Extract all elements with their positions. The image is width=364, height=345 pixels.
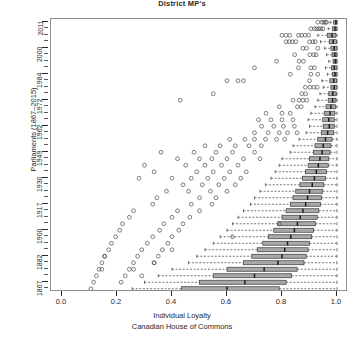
outlier-point	[308, 85, 312, 89]
outlier-point	[156, 254, 160, 258]
boxplot-row	[114, 235, 337, 239]
outlier-point	[272, 124, 276, 128]
outlier-point	[259, 144, 263, 148]
outlier-point	[200, 183, 204, 187]
x-tick-label: 0.8	[266, 297, 296, 306]
outlier-point	[275, 59, 279, 63]
boxplot-row	[293, 53, 337, 57]
boxplot-row	[228, 137, 337, 141]
outlier-point	[233, 183, 237, 187]
outlier-point	[119, 280, 123, 284]
boxplot-row	[100, 261, 337, 265]
outlier-point	[280, 33, 284, 37]
outlier-point	[308, 53, 312, 57]
outlier-point	[176, 157, 180, 161]
y-tick	[44, 274, 48, 275]
y-tick-label: 2000	[37, 47, 44, 63]
outlier-point	[293, 53, 297, 57]
boxplot-row	[132, 209, 337, 213]
outlier-point	[176, 209, 180, 213]
outlier-point	[225, 189, 229, 193]
outlier-point	[123, 274, 127, 278]
outlier-point	[121, 222, 125, 226]
boxplot-row	[253, 66, 337, 70]
outlier-point	[309, 72, 313, 76]
outlier-point	[233, 144, 237, 148]
outlier-point	[210, 202, 214, 206]
boxplot-row	[118, 228, 337, 232]
boxplot-row	[89, 287, 337, 290]
outlier-point	[316, 20, 320, 24]
outlier-point	[283, 137, 287, 141]
boxplot-row	[225, 79, 337, 83]
outlier-point	[303, 85, 307, 89]
outlier-point	[260, 124, 264, 128]
outlier-point	[159, 150, 163, 154]
outlier-point	[136, 254, 140, 258]
x-tick	[116, 291, 117, 296]
boxplot-series	[51, 19, 346, 290]
outlier-point	[236, 163, 240, 167]
boxplot-row	[309, 27, 337, 31]
outlier-point	[152, 261, 156, 265]
outlier-point	[302, 59, 306, 63]
x-tick	[61, 291, 62, 296]
x-tick	[226, 291, 227, 296]
outlier-point	[266, 131, 270, 135]
boxplot-row	[277, 105, 337, 109]
outlier-point	[152, 170, 156, 174]
y-tick	[44, 112, 48, 113]
outlier-point	[143, 163, 147, 167]
outlier-point	[107, 248, 111, 252]
y-tick-label: 1984	[37, 73, 44, 89]
outlier-point	[188, 215, 192, 219]
outlier-point	[292, 124, 296, 128]
outlier-point	[236, 79, 240, 83]
y-tick	[44, 261, 48, 262]
outlier-point	[288, 72, 292, 76]
outlier-point	[220, 163, 224, 167]
y-tick-label: 1949	[37, 151, 44, 167]
y-tick	[44, 105, 48, 106]
x-tick-label: 0.4	[156, 297, 186, 306]
y-tick	[44, 27, 48, 28]
chart-title: District MP's	[0, 0, 364, 8]
y-tick-label: 1882	[37, 255, 44, 271]
outlier-point	[264, 137, 268, 141]
outlier-point	[269, 118, 273, 122]
outlier-point	[184, 163, 188, 167]
outlier-point	[151, 202, 155, 206]
outlier-point	[100, 261, 104, 265]
boxplot-row	[151, 202, 337, 206]
outlier-point	[198, 157, 202, 161]
outlier-point	[253, 150, 257, 154]
y-tick	[44, 118, 48, 119]
outlier-point	[192, 150, 196, 154]
boxplot-row	[275, 59, 337, 63]
boxplot-row	[288, 72, 337, 76]
x-axis-title-line1: Individual Loyalty	[0, 311, 364, 322]
y-tick	[44, 66, 48, 67]
outlier-point	[277, 131, 281, 135]
y-tick	[44, 190, 48, 191]
outlier-point	[89, 287, 93, 290]
outlier-point	[305, 98, 309, 102]
x-tick	[281, 291, 282, 296]
outlier-point	[217, 183, 221, 187]
outlier-point	[158, 228, 162, 232]
y-tick	[44, 222, 48, 223]
outlier-point	[178, 98, 182, 102]
boxplot-row	[107, 248, 337, 252]
outlier-point	[299, 105, 303, 109]
outlier-point	[297, 59, 301, 63]
outlier-point	[314, 53, 318, 57]
outlier-point	[170, 235, 174, 239]
boxplot-row	[103, 254, 337, 258]
y-tick	[44, 248, 48, 249]
y-tick-label: 1972	[37, 99, 44, 115]
y-tick	[44, 183, 48, 184]
boxplot-row	[203, 144, 337, 148]
boxplot-row	[92, 280, 337, 284]
outlier-point	[316, 72, 320, 76]
boxplot-figure: District MP's 18671882190019171930194919…	[0, 0, 364, 345]
